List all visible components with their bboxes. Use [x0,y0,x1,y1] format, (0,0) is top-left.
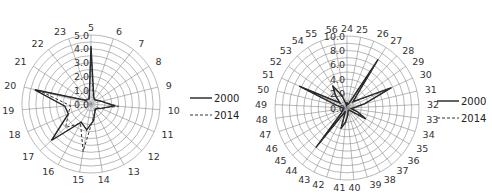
category-label: 48 [256,114,268,125]
category-label: 41 [333,182,345,193]
category-label: 6 [116,26,122,37]
radar-chart-left-svg: 5678910111213141516171819202122230.01.02… [0,0,246,196]
category-label: 43 [298,174,310,185]
category-label: 33 [426,114,438,125]
category-label: 46 [266,143,278,154]
category-label: 40 [349,182,361,193]
category-label: 49 [255,99,267,110]
category-label: 22 [32,38,44,49]
category-label: 50 [257,84,269,95]
grid-spoke [91,39,113,104]
grid-spoke [91,50,133,104]
legend: 20002014 [190,93,239,121]
category-label: 36 [407,155,419,166]
grid-spoke [347,108,418,118]
category-label: 13 [128,166,140,177]
category-label: 42 [312,179,324,190]
tick-label: 1.0 [74,85,89,96]
category-label: 44 [285,165,297,176]
category-label: 31 [425,84,437,95]
category-label: 8 [155,56,161,67]
legend-label-2000: 2000 [214,93,239,104]
category-label: 39 [370,179,382,190]
category-label: 47 [259,129,271,140]
category-label: 27 [390,35,402,46]
category-label: 12 [148,151,160,162]
legend-label-2000: 2000 [461,96,486,107]
category-label: 15 [72,174,84,185]
category-label: 20 [4,80,16,91]
category-label: 7 [138,38,144,49]
grid-spoke [40,104,91,151]
category-label: 18 [8,129,20,140]
tick-label: 6.0 [330,59,345,70]
grid-spoke [91,104,142,151]
category-label: 53 [280,45,292,56]
category-label: 52 [270,56,282,67]
category-label: 54 [292,35,304,46]
category-label: 14 [98,174,110,185]
series-2014 [301,62,389,145]
category-label: 16 [42,166,54,177]
category-label: 11 [162,129,174,140]
legend: 20002014 [437,96,486,124]
tick-label: 3.0 [74,57,89,68]
category-label: 34 [423,129,435,140]
radar-chart-right-svg: 2425262728293031323334353637383940414243… [246,0,492,196]
legend-label-2014: 2014 [214,110,239,121]
category-label: 37 [396,165,408,176]
radar-chart-left: 5678910111213141516171819202122230.01.02… [0,0,246,196]
category-label: 26 [377,28,389,39]
category-label: 25 [356,24,368,35]
tick-label: 10.0 [324,31,345,42]
category-label: 21 [14,56,26,67]
category-label: 29 [412,56,424,67]
category-label: 9 [166,80,172,91]
category-label: 35 [416,143,428,154]
category-label: 38 [384,174,396,185]
category-label: 45 [274,155,286,166]
grid-spoke [293,108,347,155]
tick-label: 8.0 [330,45,345,56]
category-label: 17 [22,151,34,162]
category-label: 55 [305,28,317,39]
category-label: 28 [402,45,414,56]
category-label: 51 [262,69,274,80]
category-label: 30 [420,69,432,80]
radar-chart-right: 2425262728293031323334353637383940414243… [246,0,492,196]
category-label: 23 [54,26,66,37]
grid-spoke [347,108,401,155]
category-label: 10 [168,105,180,116]
tick-label: 4.0 [330,74,345,85]
tick-label: 4.0 [74,43,89,54]
legend-label-2014: 2014 [461,113,486,124]
tick-label: 5.0 [74,30,89,41]
radar-grid [275,36,419,180]
tick-label: 2.0 [74,71,89,82]
category-label: 19 [2,105,14,116]
